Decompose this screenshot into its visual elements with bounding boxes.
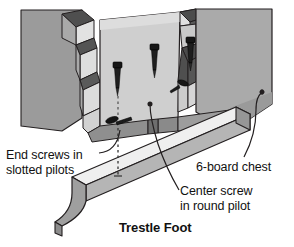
label-six-board-chest: 6-board chest	[196, 160, 271, 175]
label-end-screws-line1: End screws in	[6, 148, 83, 163]
chest-front-panel	[100, 12, 180, 128]
figure-canvas: End screws in slotted pilots 6-board che…	[0, 0, 294, 247]
label-end-screws-line2: slotted pilots	[6, 163, 83, 178]
label-six-board-chest-line1: 6-board chest	[196, 160, 271, 175]
label-center-screw: Center screw in round pilot	[180, 184, 252, 213]
label-center-screw-line2: in round pilot	[180, 199, 252, 214]
figure-title: Trestle Foot	[119, 221, 191, 236]
label-center-screw-line1: Center screw	[180, 184, 252, 199]
chest-bottom-edge-right	[158, 117, 178, 133]
foot-left-end-curve	[55, 177, 86, 226]
label-end-screws: End screws in slotted pilots	[6, 148, 83, 177]
